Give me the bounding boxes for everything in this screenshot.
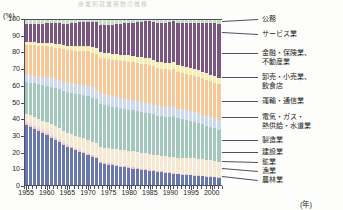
stack-segment bbox=[131, 151, 134, 167]
stack-segment bbox=[205, 126, 208, 159]
stack-segment bbox=[168, 70, 171, 107]
stack-segment bbox=[152, 171, 155, 185]
stack-segment bbox=[33, 76, 36, 84]
stack-segment bbox=[136, 169, 139, 185]
stack-segment bbox=[62, 24, 65, 46]
legend-leader-line bbox=[222, 101, 258, 102]
stack-segment bbox=[103, 164, 106, 185]
stack-segment bbox=[74, 136, 77, 148]
stack-segment bbox=[45, 23, 48, 43]
legend-label: 運輸・通信業 bbox=[262, 97, 304, 106]
stack-segment bbox=[74, 94, 77, 135]
stack-segment bbox=[62, 82, 65, 91]
stack-segment bbox=[91, 22, 94, 47]
stack-segment bbox=[176, 23, 179, 65]
legend-label: 熱供給・水道業 bbox=[262, 122, 311, 131]
stack-segment bbox=[168, 63, 171, 70]
stack-column bbox=[217, 19, 221, 185]
stack-segment bbox=[58, 80, 61, 89]
x-axis-unit-label: (年) bbox=[300, 198, 312, 209]
y-tick-label: 90 bbox=[0, 32, 20, 39]
stack-segment bbox=[111, 96, 114, 106]
plot-top-rule bbox=[24, 19, 222, 20]
stack-segment bbox=[136, 22, 139, 56]
stack-segment bbox=[164, 173, 167, 185]
stack-segment bbox=[115, 24, 118, 54]
stack-segment bbox=[66, 147, 69, 185]
stacked-columns bbox=[25, 19, 222, 185]
legend-leader-line bbox=[222, 77, 258, 78]
stack-segment bbox=[99, 58, 102, 94]
stack-segment bbox=[123, 99, 126, 109]
stack-segment bbox=[140, 113, 143, 153]
stack-segment bbox=[50, 78, 53, 86]
stack-segment bbox=[33, 24, 36, 43]
stack-segment bbox=[41, 24, 44, 43]
x-tick-label: 2000 bbox=[199, 189, 225, 196]
stack-segment bbox=[213, 118, 216, 128]
stack-segment bbox=[58, 142, 61, 185]
stack-segment bbox=[62, 92, 65, 131]
stack-segment bbox=[144, 153, 147, 168]
stack-segment bbox=[29, 127, 32, 185]
stack-segment bbox=[176, 158, 179, 174]
stack-segment bbox=[99, 163, 102, 185]
stack-segment bbox=[197, 23, 200, 71]
stack-segment bbox=[127, 23, 130, 55]
stack-segment bbox=[82, 85, 85, 95]
stack-segment bbox=[197, 70, 200, 77]
stack-segment bbox=[33, 45, 36, 75]
stack-segment bbox=[86, 22, 89, 47]
stack-segment bbox=[41, 77, 44, 85]
stack-segment bbox=[201, 125, 204, 159]
stack-segment bbox=[115, 97, 118, 107]
stack-segment bbox=[37, 131, 40, 185]
stack-segment bbox=[119, 24, 122, 55]
stack-segment bbox=[172, 117, 175, 157]
stack-segment bbox=[205, 80, 208, 116]
legend-label: 電気・ガス・ bbox=[262, 113, 304, 122]
stack-segment bbox=[54, 23, 57, 44]
stack-segment bbox=[205, 116, 208, 126]
stack-segment bbox=[160, 62, 163, 69]
stack-segment bbox=[148, 103, 151, 113]
stack-segment bbox=[181, 66, 184, 73]
stack-segment bbox=[209, 160, 212, 176]
stack-segment bbox=[50, 23, 53, 43]
stack-segment bbox=[217, 162, 220, 177]
industry-composition-chart: 産業別就業者数の推移 (%) (年) 010203040506070809010… bbox=[0, 0, 343, 210]
stack-segment bbox=[66, 50, 69, 83]
stack-segment bbox=[103, 148, 106, 162]
stack-segment bbox=[119, 167, 122, 185]
stack-segment bbox=[123, 61, 126, 99]
stack-segment bbox=[91, 142, 94, 155]
stack-segment bbox=[189, 68, 192, 75]
stack-segment bbox=[164, 63, 167, 70]
stack-segment bbox=[160, 156, 163, 171]
stack-segment bbox=[91, 53, 94, 88]
stack-segment bbox=[213, 83, 216, 119]
stack-segment bbox=[152, 115, 155, 155]
y-tick-mark bbox=[21, 103, 24, 104]
stack-segment bbox=[95, 100, 98, 143]
stack-segment bbox=[115, 166, 118, 185]
y-tick-mark bbox=[21, 69, 24, 70]
stack-segment bbox=[156, 117, 159, 156]
stack-segment bbox=[140, 64, 143, 102]
stack-segment bbox=[136, 101, 139, 111]
stack-segment bbox=[148, 65, 151, 104]
stack-segment bbox=[131, 169, 134, 185]
legend-label: サービス業 bbox=[262, 30, 297, 39]
stack-segment bbox=[131, 62, 134, 100]
stack-segment bbox=[213, 177, 216, 185]
stack-segment bbox=[160, 23, 163, 62]
stack-segment bbox=[115, 149, 118, 164]
stack-segment bbox=[201, 23, 204, 72]
stack-segment bbox=[78, 85, 81, 95]
stack-segment bbox=[172, 107, 175, 117]
legend-label: 不動産業 bbox=[262, 58, 290, 67]
stack-segment bbox=[140, 170, 143, 185]
stack-segment bbox=[29, 75, 32, 83]
stack-segment bbox=[148, 21, 151, 58]
stack-segment bbox=[148, 58, 151, 65]
